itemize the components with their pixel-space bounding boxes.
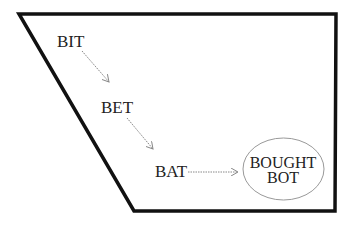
vowel-chart-diagram: BIT BET BAT BOUGHT BOT [0,0,355,228]
arrow-bit-to-bet [82,51,109,82]
node-bit-label: BIT [57,32,85,51]
node-bot-label: BOT [267,169,299,186]
node-bet-label: BET [101,98,134,117]
node-bat-label: BAT [155,162,188,181]
arrow-bet-to-bat [127,118,153,149]
